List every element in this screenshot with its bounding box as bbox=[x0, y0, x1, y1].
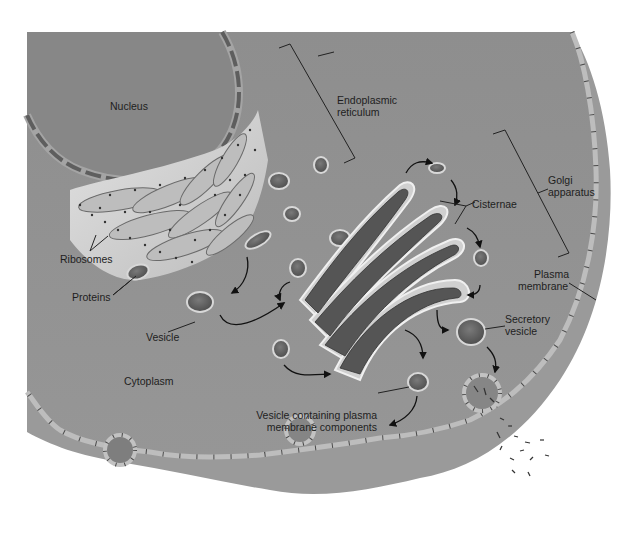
label-nucleus: Nucleus bbox=[110, 100, 148, 112]
label-endoplasmic-reticulum-1: Endoplasmic bbox=[337, 94, 397, 106]
label-vesicle-plasma-components-2: membrane components bbox=[247, 421, 377, 433]
label-cisternae: Cisternae bbox=[472, 198, 517, 210]
label-proteins: Proteins bbox=[72, 291, 111, 303]
label-endoplasmic-reticulum-2: reticulum bbox=[337, 106, 380, 118]
label-plasma-membrane-2: membrane bbox=[518, 280, 568, 292]
membrane-pit-left bbox=[105, 435, 135, 465]
label-cytoplasm: Cytoplasm bbox=[124, 375, 174, 387]
secretory-vesicle bbox=[457, 319, 485, 345]
label-ribosomes: Ribosomes bbox=[60, 253, 113, 265]
label-vesicle: Vesicle bbox=[146, 331, 179, 343]
label-secretory-vesicle-1: Secretory bbox=[505, 313, 550, 325]
label-vesicle-plasma-components-1: Vesicle containing plasma bbox=[247, 409, 377, 421]
label-plasma-membrane-1: Plasma bbox=[534, 268, 569, 280]
label-golgi-apparatus-1: Golgi bbox=[548, 174, 573, 186]
cell-diagram: Nucleus Endoplasmic reticulum Golgi appa… bbox=[0, 0, 644, 537]
label-secretory-vesicle-2: vesicle bbox=[505, 325, 537, 337]
label-golgi-apparatus-2: apparatus bbox=[548, 186, 595, 198]
